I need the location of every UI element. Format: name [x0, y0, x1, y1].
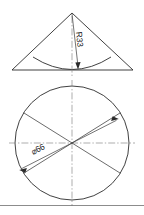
- drawing-sheet: R33 ⌀66: [0, 0, 144, 215]
- technical-drawing-canvas: R33 ⌀66: [0, 0, 144, 215]
- diameter-arrowhead-right: [111, 116, 119, 121]
- cone-triangle-outline: [12, 13, 133, 70]
- radius-dimension-label: R33: [74, 31, 86, 47]
- radius-leader-arrowhead: [75, 62, 80, 70]
- plan-spoke-2: [24, 113, 72, 143]
- top-plan-circle-view: [9, 80, 135, 206]
- front-elevation-cone-view: [12, 13, 133, 78]
- diameter-dimension-label: ⌀66: [29, 141, 46, 156]
- plan-spoke-4: [72, 143, 120, 173]
